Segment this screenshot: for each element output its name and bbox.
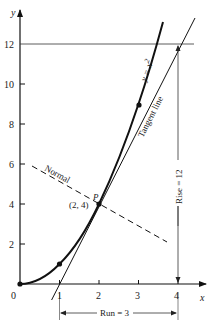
- y-tick-8: 8: [9, 119, 14, 130]
- origin-label: 0: [11, 290, 16, 301]
- point-3-9: [136, 102, 141, 107]
- y-axis: [20, 10, 25, 284]
- run-label: Run = 3: [100, 308, 130, 318]
- point-origin: [17, 281, 22, 286]
- point-p-coords: (2, 4): [69, 200, 89, 210]
- rise-label: Rise = 12: [174, 160, 184, 206]
- svg-text:Normal: Normal: [43, 163, 72, 185]
- tangent-diagram: y x 0 1 2 3 4 2 4 6 8 10 12 y = x2 Tange…: [0, 0, 216, 332]
- normal-label: Normal: [43, 163, 72, 185]
- x-tick-3: 3: [135, 290, 140, 301]
- y-tick-10: 10: [4, 79, 14, 90]
- y-axis-label: y: [10, 7, 16, 18]
- x-tick-1: 1: [57, 290, 62, 301]
- y-tick-2: 2: [9, 239, 14, 250]
- parabola-curve: [20, 22, 163, 284]
- x-tick-4: 4: [174, 290, 179, 301]
- svg-text:Rise = 12: Rise = 12: [174, 169, 184, 204]
- point-p-label: P: [92, 192, 99, 202]
- x-axis-label: x: [199, 292, 205, 303]
- y-tick-4: 4: [9, 199, 14, 210]
- x-tick-2: 2: [96, 290, 101, 301]
- y-tick-6: 6: [9, 159, 14, 170]
- point-1-1: [57, 261, 62, 266]
- tangent-line: [52, 18, 195, 300]
- point-p: [96, 201, 101, 206]
- y-tick-12: 12: [4, 39, 14, 50]
